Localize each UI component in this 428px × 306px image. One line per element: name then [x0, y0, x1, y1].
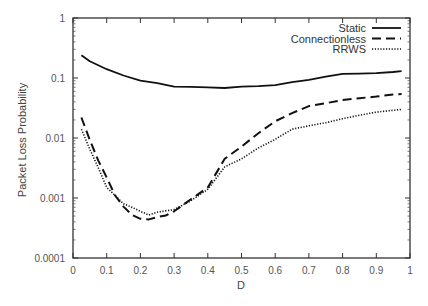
x-axis-ticks: 00.10.20.30.40.50.60.70.80.91	[70, 18, 413, 276]
legend-label: RRWS	[333, 43, 366, 55]
series-static-line	[81, 55, 401, 88]
x-tick-label: 0.7	[302, 265, 316, 276]
x-tick-label: 0.1	[100, 265, 114, 276]
line-chart: 10.10.010.0010.0001 00.10.20.30.40.50.60…	[0, 0, 428, 306]
series-layer	[81, 55, 401, 219]
series-connectionless-line	[81, 94, 401, 219]
y-tick-label: 1	[59, 13, 65, 24]
x-tick-label: 0.4	[201, 265, 215, 276]
x-tick-label: 0.3	[167, 265, 181, 276]
y-axis-label: Packet Loss Probability	[16, 82, 28, 197]
y-tick-label: 0.0001	[34, 253, 65, 264]
x-tick-label: 0.5	[235, 265, 249, 276]
x-tick-label: 0.9	[369, 265, 383, 276]
x-axis-label: D	[237, 279, 245, 291]
y-tick-label: 0.1	[51, 73, 65, 84]
y-tick-label: 0.001	[40, 193, 65, 204]
legend: StaticConnectionlessRRWS	[291, 22, 401, 55]
x-tick-label: 0.6	[268, 265, 282, 276]
x-tick-label: 0.2	[133, 265, 147, 276]
x-tick-label: 0.8	[336, 265, 350, 276]
series-rrws-line	[81, 109, 401, 215]
x-tick-label: 1	[407, 265, 413, 276]
x-tick-label: 0	[70, 265, 76, 276]
y-tick-label: 0.01	[46, 133, 66, 144]
